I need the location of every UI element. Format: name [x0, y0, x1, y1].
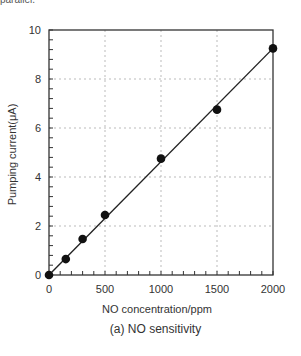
data-point: [157, 154, 166, 163]
figure-caption: (a) NO sensitivity: [0, 322, 301, 336]
y-tick-label: 8: [35, 73, 41, 85]
data-point: [45, 271, 54, 280]
x-axis-label: NO concentration/ppm: [102, 303, 212, 315]
y-tick-label: 6: [35, 122, 41, 134]
data-point: [78, 235, 87, 244]
x-tick-label: 2000: [261, 283, 285, 295]
data-point: [62, 255, 71, 264]
y-tick-label: 2: [35, 220, 41, 232]
x-tick-label: 500: [96, 283, 114, 295]
no-sensitivity-chart: 05001000150020000246810NO concentration/…: [0, 0, 301, 356]
y-tick-label: 4: [35, 171, 41, 183]
data-point: [213, 105, 222, 114]
y-tick-label: 0: [35, 269, 41, 281]
data-point: [269, 44, 278, 53]
x-tick-label: 0: [46, 283, 52, 295]
y-axis-label: Pumping current(μA): [6, 104, 18, 206]
x-tick-label: 1500: [205, 283, 229, 295]
y-tick-label: 10: [29, 24, 41, 36]
data-point: [101, 211, 110, 220]
x-tick-label: 1000: [149, 283, 173, 295]
